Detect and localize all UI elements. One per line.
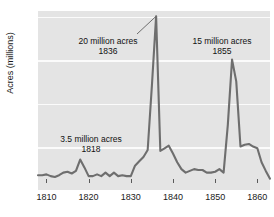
x-tick-mark-1860 xyxy=(257,179,258,183)
x-tick-label-1810: 1810 xyxy=(26,192,66,202)
chart-figure: Acres (millions) 20 15 10 5 20 million a… xyxy=(0,0,274,217)
x-tick-label-1850: 1850 xyxy=(195,192,235,202)
x-tick-mark-1840 xyxy=(173,179,174,183)
annotation-1836-label: 20 million acres xyxy=(60,36,156,46)
x-tick-label-1840: 1840 xyxy=(153,192,193,202)
annotation-1818: 3.5 million acres 1818 xyxy=(43,134,139,154)
annotation-1818-year: 1818 xyxy=(43,144,139,154)
annotation-1836: 20 million acres 1836 xyxy=(60,36,156,56)
annotation-1836-year: 1836 xyxy=(60,46,156,56)
x-tick-mark-1830 xyxy=(131,179,132,183)
series-layer xyxy=(0,0,274,217)
x-tick-mark-1820 xyxy=(89,179,90,183)
x-tick-label-1860: 1860 xyxy=(237,192,274,202)
x-tick-mark-1810 xyxy=(46,179,47,183)
annotation-leader-line xyxy=(137,16,156,34)
x-tick-label-1830: 1830 xyxy=(111,192,151,202)
annotation-1855: 15 million acres 1855 xyxy=(176,36,268,56)
annotation-1855-label: 15 million acres xyxy=(176,36,268,46)
x-tick-mark-1850 xyxy=(215,179,216,183)
annotation-1855-year: 1855 xyxy=(176,46,268,56)
annotation-1818-label: 3.5 million acres xyxy=(43,134,139,144)
x-tick-label-1820: 1820 xyxy=(69,192,109,202)
